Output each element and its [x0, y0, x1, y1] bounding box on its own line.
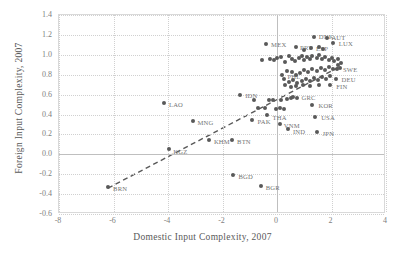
data-point[interactable] [282, 77, 286, 81]
data-point[interactable] [264, 42, 268, 46]
data-point-label: KGZ [173, 148, 187, 155]
y-axis-tick-label: 0.6 [18, 89, 52, 98]
y-axis-tick-label: 0.4 [18, 109, 52, 118]
data-point-label: LUX [339, 40, 353, 47]
data-point[interactable] [308, 84, 312, 88]
data-point[interactable] [323, 55, 327, 59]
x-axis-tick-label: -6 [98, 216, 128, 225]
data-point-label: BGD [238, 173, 253, 180]
y-axis-tick-label: -0.4 [18, 189, 52, 198]
data-point-label: SWE [343, 66, 358, 73]
data-point[interactable] [279, 55, 283, 59]
data-point[interactable] [316, 78, 320, 82]
data-point-label: IDN [245, 92, 257, 99]
gridline-horizontal [59, 75, 384, 76]
x-axis-tick-label: -2 [207, 216, 237, 225]
gridline-horizontal [59, 134, 384, 135]
data-point[interactable] [294, 84, 298, 88]
data-point[interactable] [293, 59, 297, 63]
gridline-horizontal [59, 214, 384, 215]
data-point[interactable] [323, 68, 327, 72]
gridline-horizontal [59, 154, 384, 155]
data-point[interactable] [283, 83, 287, 87]
data-point[interactable] [301, 83, 305, 87]
gridline-horizontal [59, 95, 384, 96]
data-point[interactable] [294, 45, 298, 49]
data-point[interactable] [317, 83, 321, 87]
data-point[interactable] [324, 77, 328, 81]
data-point[interactable] [328, 74, 332, 78]
data-point-label: MNG [198, 119, 214, 126]
data-point[interactable] [260, 58, 264, 62]
data-point[interactable] [309, 46, 313, 50]
data-point[interactable] [162, 101, 166, 105]
data-point-label: USA [321, 114, 335, 121]
y-axis-tick-label: -0.2 [18, 169, 52, 178]
data-point-label: BGR [266, 184, 280, 191]
gridline-horizontal [59, 55, 384, 56]
data-point[interactable] [338, 66, 342, 70]
y-axis-tick-label: 1.4 [18, 10, 52, 19]
data-point[interactable] [238, 93, 242, 97]
plot-area: BRNLAOKGZMNGKHMBTNIDNBGDBGRPAKTHAMEXVNMI… [58, 14, 385, 213]
data-point-label: PAK [257, 118, 270, 125]
y-axis-tick-label: 0.0 [18, 149, 52, 158]
x-axis-tick-label: 4 [370, 216, 400, 225]
data-point-label: FIN [336, 83, 347, 90]
data-point-label: LAO [169, 101, 183, 108]
data-point-label: JPN [323, 130, 335, 137]
data-point[interactable] [308, 79, 312, 83]
x-axis-tick-label: -4 [152, 216, 182, 225]
data-point-label: BRN [113, 185, 127, 192]
data-point[interactable] [315, 69, 319, 73]
data-point[interactable] [259, 184, 263, 188]
data-point[interactable] [331, 41, 335, 45]
data-point[interactable] [334, 77, 338, 81]
gridline-vertical [59, 15, 60, 212]
data-point[interactable] [252, 98, 256, 102]
data-point-label: DEU [342, 76, 356, 83]
gridline-horizontal [59, 15, 384, 16]
gridline-horizontal [59, 115, 384, 116]
data-point[interactable] [283, 60, 287, 64]
gridline-vertical [386, 15, 387, 212]
y-axis-tick-label: 1.2 [18, 29, 52, 38]
y-axis-tick-label: 0.8 [18, 69, 52, 78]
data-point-label: GRC [301, 94, 315, 101]
x-axis-tick-label: 0 [261, 216, 291, 225]
gridline-horizontal [59, 194, 384, 195]
data-point-label: MEX [271, 41, 286, 48]
data-point[interactable] [319, 66, 323, 70]
gridline-vertical [223, 15, 224, 212]
data-point[interactable] [271, 98, 275, 102]
data-point[interactable] [312, 35, 316, 39]
y-axis-tick-label: 1.0 [18, 49, 52, 58]
data-point[interactable] [291, 95, 295, 99]
data-point-label: THA [272, 114, 286, 121]
data-point[interactable] [289, 85, 293, 89]
data-point[interactable] [279, 98, 283, 102]
data-point[interactable] [263, 106, 267, 110]
data-point-label: BTN [237, 138, 251, 145]
y-axis-tick-label: 0.2 [18, 129, 52, 138]
x-axis-tick-label: -8 [43, 216, 73, 225]
scatter-chart: BRNLAOKGZMNGKHMBTNIDNBGDBGRPAKTHAMEXVNMI… [0, 0, 405, 260]
x-axis-title: Domestic Input Complexity, 2007 [0, 232, 405, 242]
gridline-vertical [168, 15, 169, 212]
data-point[interactable] [282, 107, 286, 111]
gridline-vertical [114, 15, 115, 212]
data-point-label: KOR [318, 102, 333, 109]
data-point[interactable] [285, 69, 289, 73]
data-point-label: IND [293, 128, 305, 135]
data-point[interactable] [331, 67, 335, 71]
data-point[interactable] [256, 106, 260, 110]
trendline [59, 15, 384, 212]
data-point-label: KHM [214, 138, 230, 145]
gridline-horizontal [59, 174, 384, 175]
data-point[interactable] [328, 83, 332, 87]
data-point[interactable] [285, 97, 289, 101]
x-axis-tick-label: 2 [316, 216, 346, 225]
